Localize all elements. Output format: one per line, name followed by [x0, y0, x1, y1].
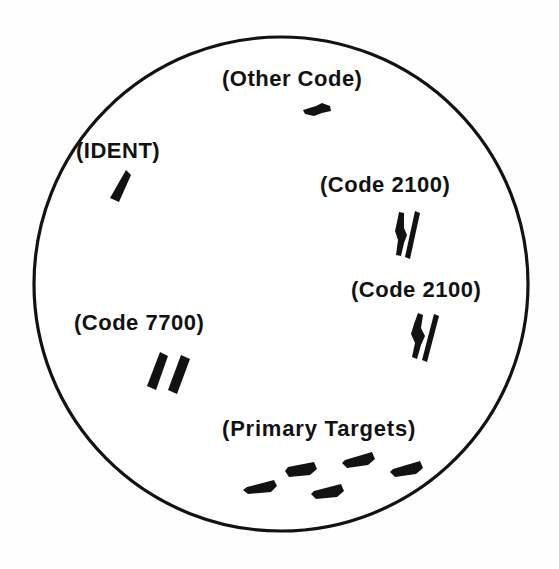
label-code-7700: (Code 7700) — [74, 312, 204, 334]
label-other-code: (Other Code) — [222, 68, 362, 90]
label-ident: (IDENT) — [76, 140, 160, 162]
label-primary-targets: (Primary Targets) — [222, 418, 416, 440]
label-code-2100-upper: (Code 2100) — [320, 174, 450, 196]
label-code-2100-lower: (Code 2100) — [351, 279, 481, 301]
radar-scope-figure: (Other Code) (IDENT) (Code 2100) (Code 2… — [0, 0, 559, 569]
